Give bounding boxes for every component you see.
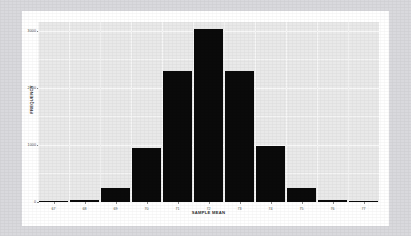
y-tick-label: 2000: [28, 86, 36, 90]
bar: [194, 29, 223, 202]
x-tick-mark: [54, 202, 55, 204]
bar: [163, 71, 192, 202]
bar: [225, 71, 254, 202]
histogram-figure: FREQUENCY 0100020003000 6768697071727374…: [0, 0, 411, 236]
y-tick-label: 1000: [28, 143, 36, 147]
gridline-x-8: [286, 22, 287, 202]
x-tick-mark: [85, 202, 86, 204]
plot-container: FREQUENCY 0100020003000 6768697071727374…: [22, 11, 389, 226]
y-tick-label: 3000: [28, 29, 36, 33]
bar: [256, 146, 285, 202]
x-tick-mark: [333, 202, 334, 204]
gridline-x-2: [100, 22, 101, 202]
x-axis-title: SAMPLE MEAN: [38, 210, 379, 215]
gridline-x-0: [38, 22, 39, 202]
x-tick-mark: [209, 202, 210, 204]
bar: [287, 188, 316, 202]
x-tick-mark: [271, 202, 272, 204]
y-axis-ticks: 0100020003000: [22, 22, 36, 202]
gridline-x-10: [348, 22, 349, 202]
gridline-x-9: [317, 22, 318, 202]
x-tick-mark: [364, 202, 365, 204]
bar: [132, 148, 161, 202]
x-tick-mark: [178, 202, 179, 204]
x-tick-mark: [302, 202, 303, 204]
y-tick-label: 0: [34, 200, 36, 204]
x-tick-mark: [240, 202, 241, 204]
plot-panel: [38, 22, 379, 202]
gridline-x-1: [69, 22, 70, 202]
bar: [101, 188, 130, 202]
x-tick-mark: [147, 202, 148, 204]
x-tick-mark: [116, 202, 117, 204]
